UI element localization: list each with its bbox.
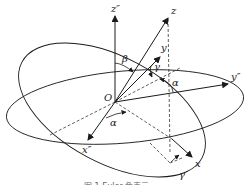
gamma-top-label: γ [154, 61, 160, 72]
tilted-plane-ellipse [0, 15, 227, 185]
alpha-left-label: α [110, 117, 117, 128]
y-axis-label: y [160, 42, 167, 53]
x-axis [172, 139, 192, 157]
gamma-bottom-label: γ [179, 169, 185, 180]
origin-label: O [104, 92, 112, 103]
figure-caption: 图 1 Euler 角表示 [84, 181, 149, 185]
x-axis-label: x [195, 158, 201, 169]
z-axis-label: z [170, 5, 177, 16]
alpha-right-label: α [172, 77, 179, 88]
euler-angle-diagram: z″ z y y″ x″ x O β γ α α γ 图 1 Euler 角表示 [0, 0, 246, 185]
dashed-projection-lines [50, 19, 182, 163]
x2-axis-label: x″ [82, 144, 92, 155]
beta-label: β [121, 53, 128, 64]
horizontal-plane-ellipse [3, 61, 246, 153]
y2-axis-label: y″ [230, 71, 241, 82]
z2-axis-label: z″ [110, 3, 120, 14]
